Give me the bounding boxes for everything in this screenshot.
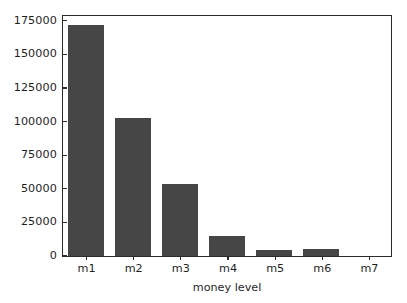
x-tick-mark bbox=[275, 256, 276, 260]
bar-m2 bbox=[115, 118, 151, 256]
bar-slot bbox=[297, 16, 344, 256]
y-tick-mark bbox=[63, 155, 67, 156]
bar-slot bbox=[204, 16, 251, 256]
x-tick-mark bbox=[180, 256, 181, 260]
x-tick-label-m5: m5 bbox=[255, 261, 295, 277]
x-tick-mark bbox=[369, 256, 370, 260]
y-tick-label: 150000 bbox=[14, 46, 57, 62]
x-tick-label-m3: m3 bbox=[161, 261, 201, 277]
y-tick-label: 100000 bbox=[14, 114, 57, 130]
plot-area: 0250005000075000100000125000150000175000… bbox=[62, 15, 392, 257]
y-tick-label: 50000 bbox=[21, 181, 57, 197]
x-tick-mark bbox=[227, 256, 228, 260]
x-tick-mark bbox=[86, 256, 87, 260]
y-tick-label: 175000 bbox=[14, 13, 57, 29]
y-tick-mark bbox=[63, 20, 67, 21]
y-tick-label: 0 bbox=[50, 248, 57, 264]
y-tick-mark bbox=[63, 87, 67, 88]
y-tick-mark bbox=[63, 222, 67, 223]
y-tick-label: 125000 bbox=[14, 80, 57, 96]
x-tick-label-m1: m1 bbox=[67, 261, 107, 277]
x-tick-mark bbox=[133, 256, 134, 260]
bar-m3 bbox=[162, 184, 198, 256]
bar-slot bbox=[157, 16, 204, 256]
x-tick-label-m4: m4 bbox=[208, 261, 248, 277]
x-tick-label-m2: m2 bbox=[114, 261, 154, 277]
y-tick-label: 25000 bbox=[21, 214, 57, 230]
y-tick-mark bbox=[63, 255, 67, 256]
bar-chart-figure: 0250005000075000100000125000150000175000… bbox=[0, 0, 407, 303]
bar-m1 bbox=[68, 25, 104, 256]
y-tick-mark bbox=[63, 188, 67, 189]
x-axis-label: money level bbox=[62, 281, 392, 295]
x-tick-label-m6: m6 bbox=[302, 261, 342, 277]
y-tick-mark bbox=[63, 54, 67, 55]
bar-slot bbox=[63, 16, 110, 256]
bar-slot bbox=[110, 16, 157, 256]
bar-series bbox=[63, 16, 391, 256]
x-tick-mark bbox=[322, 256, 323, 260]
x-tick-label-m7: m7 bbox=[349, 261, 389, 277]
bar-slot bbox=[250, 16, 297, 256]
bar-m6 bbox=[303, 249, 339, 256]
y-tick-mark bbox=[63, 121, 67, 122]
bar-slot bbox=[344, 16, 391, 256]
y-tick-label: 75000 bbox=[21, 147, 57, 163]
bar-m4 bbox=[209, 236, 245, 256]
